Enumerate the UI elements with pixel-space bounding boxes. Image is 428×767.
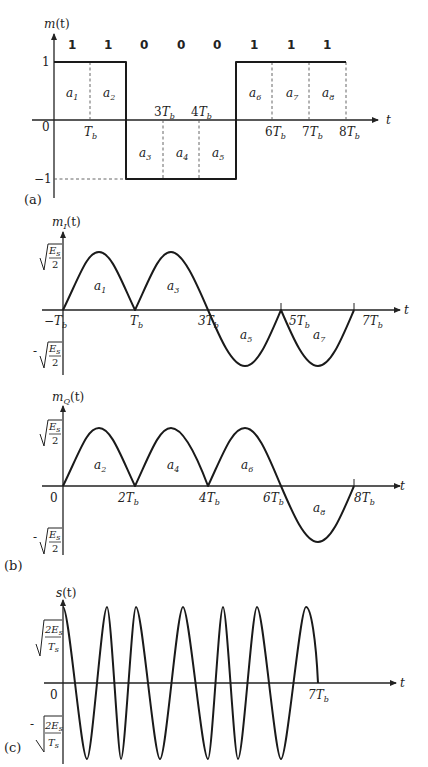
- svg-text:a8: a8: [322, 86, 334, 102]
- amplitude-positive-label: 2Es Ts: [36, 620, 63, 656]
- in-phase-waveform: [63, 252, 354, 366]
- svg-text:a6: a6: [241, 458, 253, 474]
- panel-b-in-phase: mI(t) t Es 2 - Es 2 a1 a3 a5 a7 −Tb: [33, 215, 409, 375]
- level-one-label: 1: [42, 55, 50, 69]
- svg-text:a7: a7: [286, 86, 299, 102]
- x-axis-label: t: [386, 113, 391, 127]
- y-axis-label: mQ(t): [52, 390, 84, 406]
- svg-text:1: 1: [287, 38, 295, 52]
- svg-text:Es: Es: [48, 529, 60, 542]
- panel-label-a: (a): [24, 192, 42, 207]
- amplitude-negative-label: - Es 2: [33, 528, 62, 554]
- svg-text:2: 2: [52, 543, 58, 554]
- x-axis-label: t: [400, 479, 405, 493]
- amplitude-negative-label: - 2Es Ts: [30, 716, 63, 752]
- svg-text:-: -: [33, 344, 37, 358]
- svg-text:a4: a4: [167, 458, 179, 474]
- panel-c-msk-signal: s(t) t 2Es Ts - 2Es Ts 0 7Tb (c): [4, 586, 405, 764]
- svg-text:2: 2: [52, 259, 58, 270]
- y-axis-label: s(t): [56, 586, 76, 600]
- svg-text:a4: a4: [176, 146, 188, 162]
- svg-text:1: 1: [323, 38, 331, 52]
- svg-text:-: -: [30, 717, 34, 731]
- y-axis-label: mI(t): [52, 215, 81, 231]
- svg-text:a5: a5: [212, 146, 224, 162]
- svg-text:−Tb: −Tb: [44, 314, 67, 330]
- svg-text:3Tb: 3Tb: [154, 105, 175, 121]
- symbol-labels: a1 a2 a3 a4 a5 a6 a7 a8: [66, 86, 334, 162]
- bit-labels: 1 1 0 0 0 1 1 1: [68, 38, 331, 52]
- level-minus-one-label: −1: [34, 172, 52, 186]
- svg-text:2Tb: 2Tb: [117, 491, 139, 507]
- svg-text:7Tb: 7Tb: [302, 125, 323, 141]
- svg-text:a3: a3: [167, 279, 179, 295]
- amplitude-negative-label: - Es 2: [33, 342, 62, 368]
- svg-text:7Tb: 7Tb: [362, 314, 383, 330]
- x-axis-label: t: [400, 676, 405, 690]
- svg-text:2: 2: [52, 357, 58, 368]
- svg-text:Ts: Ts: [48, 737, 59, 750]
- origin-label: 0: [42, 120, 50, 134]
- svg-text:Es: Es: [48, 421, 60, 434]
- panel-label-b: (b): [4, 558, 22, 573]
- svg-text:3Tb: 3Tb: [198, 314, 219, 330]
- svg-text:1: 1: [250, 38, 258, 52]
- svg-text:1: 1: [68, 38, 76, 52]
- x-axis-label: t: [404, 303, 409, 317]
- svg-text:-: -: [33, 530, 37, 544]
- svg-text:a5: a5: [240, 328, 252, 344]
- svg-text:1: 1: [104, 38, 112, 52]
- svg-text:a7: a7: [313, 328, 326, 344]
- time-tick-labels: −Tb Tb 3Tb 5Tb 7Tb: [44, 314, 383, 330]
- panel-label-c: (c): [4, 740, 21, 755]
- svg-text:0: 0: [50, 491, 58, 505]
- svg-text:a2: a2: [94, 458, 106, 474]
- svg-text:8Tb: 8Tb: [354, 491, 375, 507]
- svg-text:5Tb: 5Tb: [289, 314, 310, 330]
- svg-text:2Es: 2Es: [44, 624, 63, 637]
- svg-text:a2: a2: [103, 86, 115, 102]
- amplitude-positive-label: Es 2: [40, 420, 62, 446]
- svg-text:Es: Es: [48, 245, 60, 258]
- y-axis-label: m(t): [44, 17, 70, 31]
- svg-text:a6: a6: [249, 86, 261, 102]
- svg-text:4Tb: 4Tb: [198, 491, 220, 507]
- origin-label: 0: [50, 688, 58, 702]
- svg-text:a1: a1: [94, 279, 106, 295]
- svg-text:a8: a8: [313, 501, 325, 517]
- svg-text:8Tb: 8Tb: [339, 125, 360, 141]
- svg-text:Es: Es: [48, 343, 60, 356]
- svg-text:Tb: Tb: [130, 314, 143, 330]
- panel-a-nrz-signal: m(t) t 1 1 0 0 0 1 1 1 1 0 −1 a1 a2 a3: [24, 17, 391, 207]
- amplitude-positive-label: Es 2: [40, 244, 62, 270]
- time-tick-labels: 0 2Tb 4Tb 6Tb 8Tb: [50, 491, 375, 507]
- end-time-label: 7Tb: [308, 688, 329, 704]
- msk-diagram: m(t) t 1 1 0 0 0 1 1 1 1 0 −1 a1 a2 a3: [0, 0, 428, 767]
- panel-b-quadrature: mQ(t) t Es 2 - Es 2 a2 a4 a6 a8 0 2Tb 4T…: [4, 390, 405, 573]
- svg-text:6Tb: 6Tb: [263, 491, 284, 507]
- svg-text:4Tb: 4Tb: [191, 105, 212, 121]
- svg-text:0: 0: [140, 38, 148, 52]
- svg-text:Ts: Ts: [48, 641, 59, 654]
- quadrature-waveform: [63, 428, 354, 542]
- svg-text:2: 2: [52, 435, 58, 446]
- svg-text:a1: a1: [66, 86, 78, 102]
- svg-text:0: 0: [177, 38, 185, 52]
- svg-text:0: 0: [213, 38, 221, 52]
- svg-text:2Es: 2Es: [44, 720, 63, 733]
- svg-text:Tb: Tb: [84, 125, 97, 141]
- svg-text:6Tb: 6Tb: [265, 125, 286, 141]
- svg-text:a3: a3: [139, 146, 151, 162]
